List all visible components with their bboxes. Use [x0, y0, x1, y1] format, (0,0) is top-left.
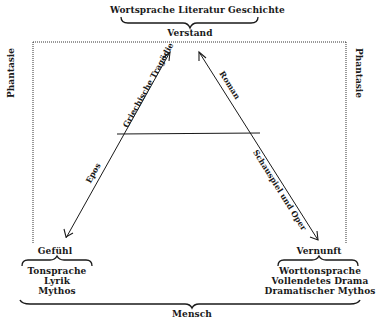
gefuehl-label: Gefühl	[30, 246, 80, 256]
bottom-left-brace	[22, 256, 92, 266]
top-brace	[121, 17, 258, 28]
right-phantasie-label: Phantasie	[354, 48, 364, 98]
bottom-left-line-3: Mythos	[22, 286, 92, 296]
bottom-right-line-3: Dramatischer Mythos	[264, 286, 376, 296]
arrow-right-top-icon	[199, 52, 206, 61]
base-brace	[20, 300, 360, 308]
bottom-left-line-1: Tonsprache	[22, 266, 92, 276]
bottom-right-line-1: Worttonsprache	[270, 266, 370, 276]
bottom-right-brace	[278, 256, 358, 266]
bottom-left-line-2: Lyrik	[22, 276, 92, 286]
top-terms: Wortsprache Literatur Geschichte	[110, 5, 270, 15]
mensch-label: Mensch	[162, 309, 222, 319]
vernunft-label: Vernunft	[290, 246, 348, 256]
verstand-label: Verstand	[160, 28, 220, 38]
bottom-right-line-2: Vollendetes Drama	[270, 276, 370, 286]
left-phantasie-label: Phantasie	[6, 48, 16, 98]
cross-line	[117, 133, 260, 134]
